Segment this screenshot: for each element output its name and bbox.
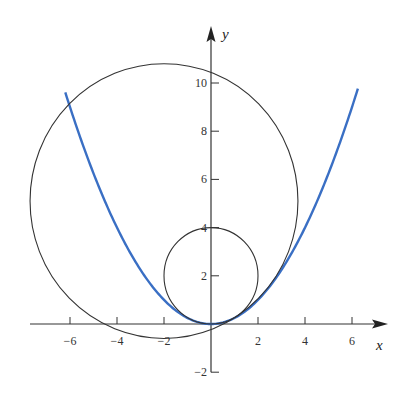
y-tick-label: 2: [201, 269, 207, 283]
y-axis-label: y: [220, 26, 229, 42]
curves: [30, 64, 358, 339]
x-tick-label: −4: [111, 334, 124, 348]
x-tick-label: 4: [302, 334, 308, 348]
plot-area: −6−4−2246−2246810xy: [0, 0, 410, 396]
tick-labels: −6−4−2246−2246810xy: [64, 26, 383, 379]
x-tick-label: 2: [255, 334, 261, 348]
x-tick-label: −2: [158, 334, 171, 348]
x-tick-label: −6: [64, 334, 77, 348]
chart: −6−4−2246−2246810xy: [0, 0, 410, 396]
x-tick-label: 6: [349, 334, 355, 348]
y-tick-label: 8: [201, 124, 207, 138]
x-axis-label: x: [375, 337, 383, 353]
y-tick-label: 4: [201, 221, 207, 235]
y-tick-label: 6: [201, 172, 207, 186]
y-tick-label: 10: [195, 76, 207, 90]
axes: [30, 26, 388, 372]
y-tick-label: −2: [194, 365, 207, 379]
